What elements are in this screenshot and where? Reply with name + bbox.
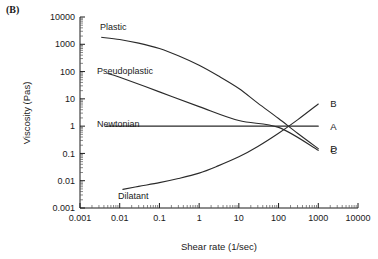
y-axis-tick-labels: 0.0010.010.1110100100010000 [50, 12, 75, 213]
curve-annotation-pseudoplastic: Pseudoplastic [97, 66, 154, 76]
figure-panel-b: (B) 0.0010.010.1110100100010000 0.0010.0… [0, 0, 378, 259]
x-axis-tick-labels: 0.0010.010.1110100100010000 [69, 213, 371, 223]
curve-plastic [102, 37, 319, 148]
log-log-viscosity-chart: 0.0010.010.1110100100010000 0.0010.010.1… [0, 0, 378, 259]
x-axis-title: Shear rate (1/sec) [181, 241, 257, 252]
x-tick-label: 100 [271, 213, 286, 223]
series-key-labels: DACB [330, 98, 337, 155]
series-key-c: C [330, 145, 337, 156]
curve-dilatant [123, 104, 318, 189]
y-tick-label: 0.01 [57, 176, 75, 186]
axes-group [80, 17, 358, 208]
curve-annotations: PlasticNewtonianPseudoplasticDilatant [97, 22, 154, 201]
y-tick-label: 10000 [50, 12, 75, 22]
y-tick-label: 10 [65, 94, 75, 104]
y-tick-label: 0.1 [62, 149, 75, 159]
x-tick-label: 1 [197, 213, 202, 223]
x-axis-ticks [80, 203, 358, 208]
series-key-b: B [330, 98, 336, 109]
x-tick-label: 0.01 [111, 213, 129, 223]
y-tick-label: 0.001 [52, 203, 75, 213]
x-tick-label: 0.1 [153, 213, 166, 223]
x-tick-label: 10 [234, 213, 244, 223]
curve-annotation-newtonian: Newtonian [97, 119, 140, 129]
curve-annotation-dilatant: Dilatant [118, 191, 149, 201]
x-tick-label: 1000 [308, 213, 328, 223]
y-tick-label: 1 [70, 121, 75, 131]
curve-annotation-plastic: Plastic [100, 22, 127, 32]
y-tick-label: 100 [60, 67, 75, 77]
x-tick-label: 10000 [345, 213, 370, 223]
y-axis-title: Viscosity (Pas) [21, 82, 32, 145]
curve-pseudoplastic [108, 74, 319, 151]
y-tick-label: 1000 [55, 39, 75, 49]
series-key-a: A [330, 121, 337, 132]
data-curves [102, 37, 319, 189]
x-tick-label: 0.001 [69, 213, 92, 223]
y-axis-ticks [80, 17, 85, 208]
